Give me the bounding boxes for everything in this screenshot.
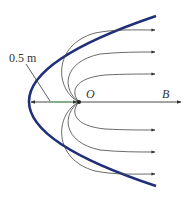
parabolic-reflector	[29, 16, 156, 186]
focus-point	[77, 100, 81, 104]
parabolic-reflector-diagram: 0.5 m O B	[0, 0, 187, 199]
field-label: B	[162, 87, 170, 101]
field-line-lower-outer	[62, 102, 155, 174]
field-line-upper-middle	[68, 52, 155, 102]
field-line-upper-outer	[62, 30, 155, 102]
field-line-lower-middle	[68, 102, 155, 152]
field-line-lower-inner	[75, 102, 155, 130]
focus-label: O	[86, 87, 95, 101]
distance-label: 0.5 m	[9, 51, 37, 65]
